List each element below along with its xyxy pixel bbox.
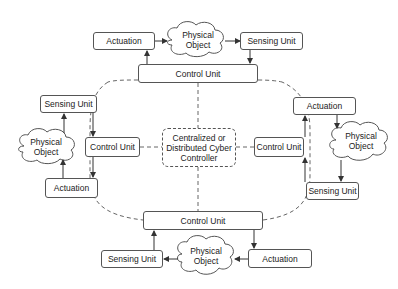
- right-sensing-unit-box: Sensing Unit: [306, 182, 359, 200]
- top-physical-object-label: Physical Object: [176, 27, 220, 53]
- top-control-unit-box: Control Unit: [138, 64, 258, 83]
- bottom-physical-object-label: Physical Object: [184, 243, 228, 269]
- left-actuation-box: Actuation: [45, 178, 98, 198]
- bottom-actuation-box: Actuation: [248, 249, 312, 268]
- left-control-unit-box: Control Unit: [85, 137, 140, 157]
- right-physical-object-label: Physical Object: [338, 128, 384, 154]
- left-sensing-unit-box: Sensing Unit: [40, 95, 97, 113]
- bottom-sensing-unit-box: Sensing Unit: [101, 250, 163, 268]
- bottom-control-unit-box: Control Unit: [143, 211, 263, 230]
- top-sensing-unit-box: Sensing Unit: [240, 32, 303, 50]
- cyber-controller-box: Centralized or Distributed Cyber Control…: [162, 128, 236, 167]
- left-physical-object-label: Physical Object: [26, 134, 66, 160]
- right-control-unit-box: Control Unit: [254, 137, 304, 157]
- right-actuation-box: Actuation: [293, 97, 356, 115]
- top-actuation-box: Actuation: [93, 32, 155, 50]
